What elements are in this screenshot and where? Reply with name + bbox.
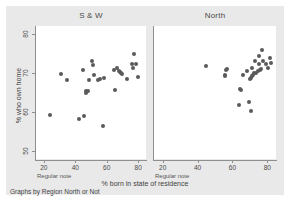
scatter-point	[101, 124, 105, 128]
scatter-point	[264, 62, 268, 66]
x-tick-label: 20	[159, 164, 166, 171]
y-tick-mark	[32, 112, 35, 113]
x-tick-mark	[138, 160, 139, 163]
x-tick-label: 60	[229, 164, 236, 171]
y-tick-label: 50	[22, 144, 29, 158]
y-axis-line-right	[153, 26, 154, 160]
scatter-point	[268, 56, 272, 60]
scatter-point	[91, 63, 95, 67]
scatter-point	[82, 114, 86, 118]
panel-title-right: North	[154, 10, 276, 22]
scatter-point	[86, 89, 90, 93]
y-tick-mark	[32, 73, 35, 74]
x-tick-label: 40	[72, 164, 79, 171]
y-axis-line-left	[35, 26, 36, 160]
panel-title-left: S & W	[36, 10, 146, 22]
scatter-point	[249, 109, 253, 113]
x-axis-line-left	[35, 160, 147, 161]
scatter-point	[269, 61, 273, 65]
scatter-point	[98, 77, 102, 81]
x-tick-mark	[107, 160, 108, 163]
y-axis-title: % who own home	[15, 36, 22, 156]
panel-note-right: Regular note	[155, 173, 189, 179]
x-tick-label: 80	[135, 164, 142, 171]
panel-note-left: Regular note	[37, 173, 71, 179]
scatter-point	[134, 62, 138, 66]
y-tick-mark	[32, 151, 35, 152]
x-tick-mark	[44, 160, 45, 163]
scatter-point	[257, 62, 261, 66]
plot-area-right	[154, 26, 276, 159]
y-tick-label: 80	[22, 27, 29, 41]
x-tick-label: 80	[264, 164, 271, 171]
scatter-point	[266, 66, 270, 70]
y-tick-mark	[32, 34, 35, 35]
figure-canvas: S & W North 506070802040608020406080 Reg…	[6, 6, 284, 195]
x-tick-mark	[163, 160, 164, 163]
x-axis-title: % born in state of residence	[6, 180, 284, 187]
x-tick-mark	[232, 160, 233, 163]
x-axis-line-right	[153, 160, 277, 161]
plot-area-left	[36, 26, 146, 159]
scatter-point	[250, 66, 254, 70]
x-tick-label: 20	[40, 164, 47, 171]
x-tick-mark	[198, 160, 199, 163]
y-tick-label: 70	[22, 66, 29, 80]
figure-caption: Graphs by Region North or Not	[10, 188, 100, 195]
x-tick-label: 60	[103, 164, 110, 171]
scatter-point	[237, 103, 241, 107]
scatter-point	[125, 77, 129, 81]
x-tick-mark	[75, 160, 76, 163]
x-tick-label: 40	[194, 164, 201, 171]
y-tick-label: 60	[22, 105, 29, 119]
scatter-point	[48, 113, 52, 117]
x-tick-mark	[267, 160, 268, 163]
scatter-point	[87, 78, 91, 82]
